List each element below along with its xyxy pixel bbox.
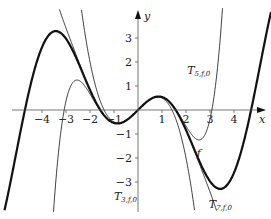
label-t5: T5,f,0 [187,64,211,78]
label-t7: T7,f,0 [209,198,233,212]
x-tick-label: 2 [183,113,190,126]
x-tick-label: 3 [207,113,214,126]
y-tick-label: −2 [116,152,132,165]
taylor-polynomial-chart: −4−3−2−11234−3−2−1123 x y fT3,f,0T5,f,0T… [0,0,271,219]
y-tick-label: −1 [116,128,132,141]
y-tick-label: 3 [125,32,132,45]
y-tick-label: 2 [125,56,132,69]
x-tick-label: −1 [106,113,122,126]
x-tick-label: 4 [231,113,238,126]
label-f: f [196,147,203,160]
x-tick-label: 1 [159,113,166,126]
label-t3: T3,f,0 [114,190,138,204]
y-axis-arrow-icon [135,10,141,19]
x-tick-label: −4 [34,113,50,126]
y-tick-label: 1 [125,80,132,93]
plot-area: −4−3−2−11234−3−2−1123 x y fT3,f,0T5,f,0T… [0,0,271,219]
x-tick-label: −2 [82,113,98,126]
y-axis-label: y [143,10,151,23]
x-axis-label: x [259,113,266,126]
y-tick-label: −3 [116,176,132,189]
x-tick-label: −3 [58,113,74,126]
